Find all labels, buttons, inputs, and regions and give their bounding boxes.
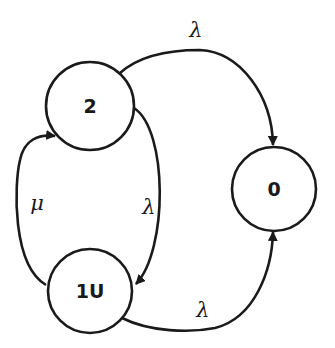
node-0: 0 bbox=[232, 147, 316, 231]
node-2: 2 bbox=[46, 62, 134, 150]
edge-label-2-to-0: λ bbox=[188, 18, 202, 42]
edge-label-2-to-1U: λ bbox=[141, 195, 155, 219]
edge-label-1U-to-0: λ bbox=[195, 298, 209, 322]
edge-label-1U-to-2: μ bbox=[30, 191, 44, 215]
node-2-label: 2 bbox=[83, 95, 96, 117]
node-1U-label: 1U bbox=[76, 280, 105, 302]
node-0-label: 0 bbox=[267, 178, 280, 200]
diagram-svg: 2 1U 0 λ λ μ λ bbox=[0, 0, 335, 348]
node-1U: 1U bbox=[48, 249, 132, 333]
edge-2-to-0 bbox=[120, 50, 273, 145]
state-diagram: 2 1U 0 λ λ μ λ bbox=[0, 0, 335, 348]
